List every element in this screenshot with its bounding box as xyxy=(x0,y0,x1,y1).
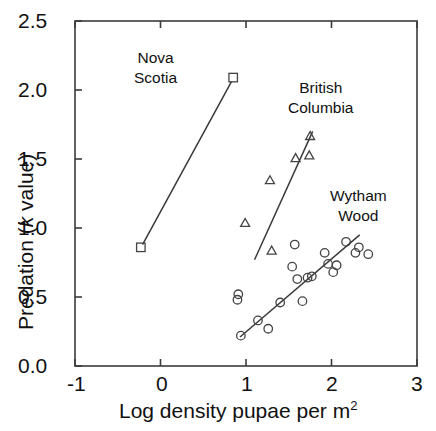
xtick-label-1: 1 xyxy=(241,372,253,396)
trendlines xyxy=(143,82,360,337)
data-point-marker xyxy=(254,316,263,325)
annotation-wytham-wood: WythamWood xyxy=(330,186,387,226)
ytick-label-2_0: 2.0 xyxy=(18,78,47,102)
y-axis-title-pre: Predation ( xyxy=(14,227,37,330)
x-axis-title: Log density pupae per m2 xyxy=(119,398,357,423)
data-point-marker xyxy=(290,240,299,249)
annotation-line: Scotia xyxy=(134,68,177,88)
annotation-line: Nova xyxy=(134,48,177,68)
data-point-marker xyxy=(364,250,373,259)
data-point-marker xyxy=(234,290,243,299)
annotation-nova-scotia: NovaScotia xyxy=(134,48,177,88)
xtick-label-minus1: -1 xyxy=(67,372,86,396)
data-point-marker xyxy=(342,238,351,247)
annotation-line: Wytham xyxy=(330,186,387,206)
annotation-line: Columbia xyxy=(288,98,353,118)
y-axis-title-post: value) xyxy=(14,154,37,217)
data-point-marker xyxy=(267,246,276,254)
annotation-line: Wood xyxy=(330,206,387,226)
y-axis-title-italic-k: k xyxy=(14,217,37,228)
data-point-marker xyxy=(288,262,297,271)
data-point-marker xyxy=(264,324,273,333)
xtick-label-2: 2 xyxy=(326,372,338,396)
data-point-marker xyxy=(265,176,274,184)
annotation-line: British xyxy=(288,78,353,98)
data-point-marker xyxy=(332,261,341,270)
data-point-marker xyxy=(229,73,238,82)
chart-figure: 2.5 2.0 1.5 1.0 0.5 0.0 -1 0 1 2 3 Preda… xyxy=(0,0,436,431)
y-axis-title: Predation (k value) xyxy=(14,154,38,330)
xtick-label-0: 0 xyxy=(156,372,168,396)
data-point-marker xyxy=(293,275,302,284)
data-point-marker xyxy=(298,297,307,306)
ytick-label-2_5: 2.5 xyxy=(18,9,47,33)
data-point-marker xyxy=(305,151,314,159)
xtick-label-3: 3 xyxy=(411,372,423,396)
data-point-marker xyxy=(291,154,300,162)
data-point-marker xyxy=(137,243,146,252)
ytick-label-0_0: 0.0 xyxy=(18,354,47,378)
data-point-marker xyxy=(241,219,250,227)
data-point-marker xyxy=(320,249,329,258)
x-axis-title-exponent: 2 xyxy=(350,398,357,413)
annotation-british-columbia: BritishColumbia xyxy=(288,78,353,118)
x-axis-title-text: Log density pupae per m xyxy=(119,399,350,422)
